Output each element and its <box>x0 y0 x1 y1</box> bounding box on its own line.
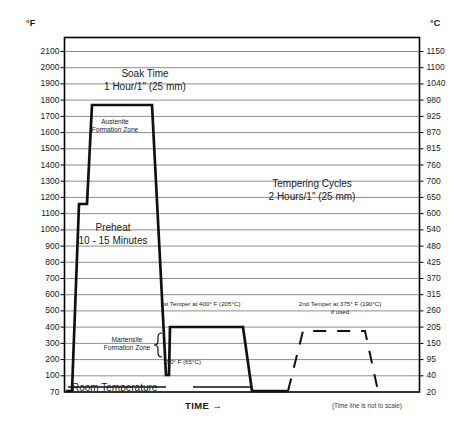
preheat-line1: Preheat <box>48 222 178 235</box>
second-temper-line2: if used <box>278 308 402 316</box>
second-temper-line1: 2nd Temper at 375° F (190°C) <box>278 300 402 308</box>
tempering-line2: 2 Hours/1" (25 mm) <box>232 191 392 204</box>
tempering-cycles-annotation: Tempering Cycles 2 Hours/1" (25 mm) <box>232 178 392 203</box>
preheat-annotation: Preheat 10 - 15 Minutes <box>48 222 178 247</box>
soak-time-line1: Soak Time <box>60 68 230 81</box>
austenite-zone-annotation: Austenite Formation Zone <box>82 118 148 134</box>
martensite-zone-annotation: Martensite Formation Zone <box>90 336 164 352</box>
scale-note: (Time line is not to scale) <box>332 402 402 409</box>
heat-treat-chart: °F °C 2100200019001800170016001500140013… <box>0 0 469 432</box>
martensite-line1: Martensite <box>90 336 164 344</box>
quench-temperature-annotation: 150° F (65°C) <box>163 358 223 366</box>
tempering-line1: Tempering Cycles <box>232 178 392 191</box>
room-temperature-annotation: Room Temperature <box>72 382 172 393</box>
plot-area <box>0 0 469 432</box>
soak-time-annotation: Soak Time 1 Hour/1" (25 mm) <box>60 68 230 93</box>
time-axis-label: TIME → <box>185 400 222 411</box>
first-temper-annotation: 1st Temper at 400° F (205°C) <box>160 300 268 308</box>
second-temper-annotation: 2nd Temper at 375° F (190°C) if used <box>278 300 402 315</box>
martensite-line2: Formation Zone <box>90 344 164 352</box>
second-temper-curve <box>288 331 378 391</box>
austenite-line1: Austenite <box>82 118 148 126</box>
austenite-line2: Formation Zone <box>82 126 148 134</box>
soak-time-line2: 1 Hour/1" (25 mm) <box>60 81 230 94</box>
preheat-line2: 10 - 15 Minutes <box>48 235 178 248</box>
